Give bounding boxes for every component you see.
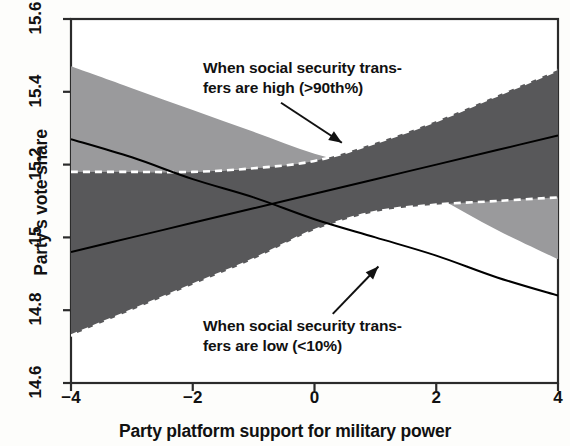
- x-tick-label: −2: [163, 388, 223, 408]
- x-tick-label: 2: [406, 388, 466, 408]
- y-tick-label: 14.6: [26, 352, 46, 412]
- y-tick-label: 15.6: [26, 0, 46, 48]
- x-axis-title: Party platform support for military powe…: [0, 421, 570, 442]
- y-tick-label: 15.2: [26, 134, 46, 194]
- chart-figure: When social security trans- fers are hig…: [0, 0, 570, 446]
- y-tick-label: 15: [26, 206, 46, 266]
- annotation-high-transfers: When social security trans- fers are hig…: [203, 58, 402, 98]
- x-tick-label: 0: [285, 388, 345, 408]
- y-tick-label: 15.4: [26, 61, 46, 121]
- x-tick-label: −4: [41, 388, 101, 408]
- y-axis-ticks: [63, 19, 71, 383]
- y-tick-label: 14.8: [26, 279, 46, 339]
- annotation-low-transfers: When social security trans- fers are low…: [203, 316, 402, 356]
- x-tick-label: 4: [528, 388, 570, 408]
